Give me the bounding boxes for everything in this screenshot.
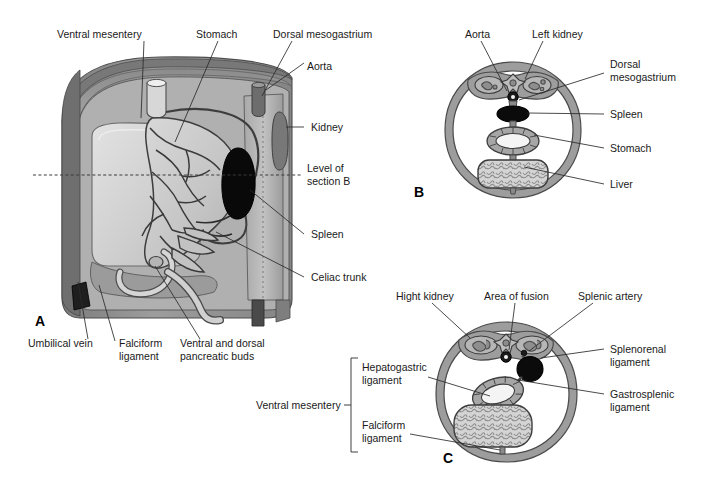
panel-letter-c: C xyxy=(443,450,453,466)
label-right-kidney-c: Hight kidney xyxy=(396,290,455,302)
figure-canvas: Ventral mesentery Stomach Dorsal mesogas… xyxy=(0,0,708,492)
label-falciform-ligament-c-line1: Falciform xyxy=(362,419,405,431)
panel-c-illustration xyxy=(436,322,577,462)
label-liver-b: Liver xyxy=(610,178,633,190)
label-falciform-ligament-c-line2: ligament xyxy=(362,432,402,444)
label-splenorenal-ligament-line1: Splenorenal xyxy=(610,343,666,355)
body-wall-cut-edge xyxy=(62,70,80,316)
kidney-panel-a xyxy=(272,112,288,170)
label-aorta-a: Aorta xyxy=(307,60,332,72)
caudal-wall-stub xyxy=(276,300,290,322)
label-kidney-a: Kidney xyxy=(311,121,344,133)
panel-letter-a: A xyxy=(35,313,45,329)
label-umbilical-vein-a: Umbilical vein xyxy=(28,337,93,349)
panel-a-illustration xyxy=(62,57,292,326)
label-splenic-artery-c: Splenic artery xyxy=(578,290,643,302)
panel-b-illustration xyxy=(445,62,581,198)
label-gastrosplenic-ligament-line1: Gastrosplenic xyxy=(610,388,674,400)
anatomy-figure: Ventral mesentery Stomach Dorsal mesogas… xyxy=(0,0,708,492)
label-level-of-section-b-line1: Level of xyxy=(307,162,344,174)
label-splenorenal-ligament-line2: ligament xyxy=(610,356,650,368)
label-pancreatic-buds-line2: pancreatic buds xyxy=(180,350,254,362)
label-gastrosplenic-ligament-line2: ligament xyxy=(610,401,650,413)
label-hepatogastric-ligament-line1: Hepatogastric xyxy=(362,361,427,373)
label-spleen-b: Spleen xyxy=(610,108,643,120)
spleen-b xyxy=(497,106,529,122)
label-area-of-fusion-c: Area of fusion xyxy=(484,290,549,302)
label-hepatogastric-ligament-line2: ligament xyxy=(362,374,402,386)
liver-c xyxy=(454,405,532,447)
neural-canal-c xyxy=(503,340,509,346)
stomach-lumen-b xyxy=(496,134,530,149)
aorta-stub-panel-a xyxy=(252,85,265,117)
label-stomach-b: Stomach xyxy=(610,142,652,154)
aorta-lumen-c xyxy=(504,355,508,359)
label-stomach-a: Stomach xyxy=(196,28,238,40)
label-spleen-a: Spleen xyxy=(311,228,344,240)
pancreatic-bud xyxy=(149,257,163,268)
esophagus-lumen xyxy=(147,79,166,86)
label-falciform-ligament-a-line2: ligament xyxy=(119,350,159,362)
aorta-lumen-panel-a xyxy=(252,82,265,87)
caudal-stub xyxy=(252,300,264,326)
splenic-artery-c xyxy=(521,350,527,356)
label-celiac-trunk-a: Celiac trunk xyxy=(311,271,367,283)
label-dorsal-mesogastrium-a: Dorsal mesogastrium xyxy=(273,28,372,40)
label-left-kidney-b: Left kidney xyxy=(532,28,584,40)
label-level-of-section-b-line2: section B xyxy=(307,175,350,187)
label-ventral-mesentery-c: Ventral mesentery xyxy=(256,399,341,411)
aorta-lumen-b xyxy=(511,95,515,99)
spleen-panel-a xyxy=(222,148,255,219)
neural-canal-b xyxy=(510,80,516,86)
panel-letter-b: B xyxy=(414,184,424,200)
label-aorta-b: Aorta xyxy=(465,28,490,40)
falciform-ligament-c xyxy=(500,447,505,454)
label-pancreatic-buds-line1: Ventral and dorsal xyxy=(180,337,265,349)
label-ventral-mesentery-a: Ventral mesentery xyxy=(57,28,142,40)
label-falciform-ligament-a-line1: Falciform xyxy=(119,337,162,349)
label-dorsal-mesogastrium-b-line1: Dorsal xyxy=(610,58,640,70)
liver-b xyxy=(478,160,548,188)
falciform-ligament-b xyxy=(510,188,516,194)
esophagus-tube xyxy=(147,83,166,118)
label-dorsal-mesogastrium-b-line2: mesogastrium xyxy=(610,71,676,83)
